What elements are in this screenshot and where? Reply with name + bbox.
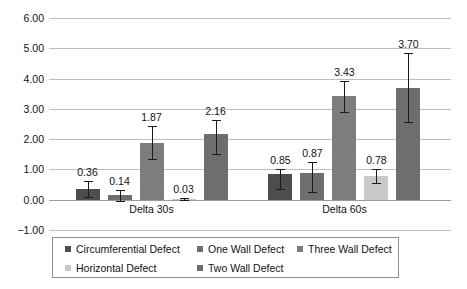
legend-label: Two Wall Defect: [208, 263, 283, 274]
error-bar: [376, 169, 377, 183]
gridline: [49, 18, 451, 19]
y-axis-tick-label: 3.00: [0, 104, 44, 115]
bar-value-label: 0.14: [102, 176, 138, 187]
legend-swatch-icon: [297, 246, 303, 252]
bar-chart: 6.005.004.003.002.001.000.00−1.00 0.360.…: [0, 0, 467, 289]
chart-legend: Circumferential DefectOne Wall DefectThr…: [52, 237, 399, 278]
y-axis-tick-label: −1.00: [0, 225, 44, 236]
y-axis-tick-label: 0.00: [0, 195, 44, 206]
error-bar-cap-upper: [340, 81, 349, 82]
legend-swatch-icon: [65, 246, 71, 252]
legend-item[interactable]: Two Wall Defect: [197, 259, 283, 277]
error-bar: [88, 181, 89, 197]
bar-value-label: 0.87: [294, 148, 330, 159]
error-bar-cap-lower: [180, 200, 189, 201]
legend-label: Circumferential Defect: [76, 244, 180, 255]
bar-value-label: 3.43: [326, 67, 362, 78]
error-bar: [344, 81, 345, 112]
error-bar-cap-upper: [308, 162, 317, 163]
error-bar-cap-lower: [372, 183, 381, 184]
error-bar-cap-upper: [372, 169, 381, 170]
error-bar: [408, 53, 409, 122]
legend-item[interactable]: Three Wall Defect: [297, 240, 392, 258]
bar-value-label: 0.85: [262, 155, 298, 166]
error-bar: [280, 169, 281, 189]
bar-value-label: 0.36: [70, 167, 106, 178]
error-bar-cap-lower: [308, 192, 317, 193]
error-bar: [216, 120, 217, 153]
y-axis-tick-label: 5.00: [0, 43, 44, 54]
legend-item[interactable]: Circumferential Defect: [65, 240, 180, 258]
gridline: [49, 169, 451, 170]
gridline: [49, 79, 451, 80]
x-axis-group-label: Delta 60s: [299, 204, 389, 215]
y-axis-tick-label: 4.00: [0, 74, 44, 85]
gridline: [49, 230, 451, 231]
error-bar: [120, 190, 121, 202]
bar-value-label: 2.16: [198, 106, 234, 117]
error-bar: [312, 162, 313, 191]
y-axis-tick-label: 6.00: [0, 13, 44, 24]
error-bar-cap-lower: [276, 189, 285, 190]
error-bar-cap-lower: [340, 112, 349, 113]
error-bar-cap-upper: [276, 169, 285, 170]
error-bar-cap-lower: [84, 197, 93, 198]
legend-row: Horizontal DefectTwo Wall Defect: [53, 259, 398, 277]
bar-value-label: 3.70: [390, 39, 426, 50]
bar-value-label: 0.78: [358, 155, 394, 166]
legend-swatch-icon: [197, 265, 203, 271]
bar-value-label: 1.87: [134, 112, 170, 123]
legend-item[interactable]: Horizontal Defect: [65, 259, 157, 277]
legend-label: Horizontal Defect: [76, 263, 157, 274]
legend-label: One Wall Defect: [208, 244, 284, 255]
gridline: [49, 109, 451, 110]
legend-label: Three Wall Defect: [308, 244, 392, 255]
error-bar-cap-upper: [180, 198, 189, 199]
error-bar-cap-lower: [148, 159, 157, 160]
error-bar-cap-lower: [116, 201, 125, 202]
legend-swatch-icon: [197, 246, 203, 252]
error-bar-cap-upper: [116, 190, 125, 191]
legend-row: Circumferential DefectOne Wall DefectThr…: [53, 240, 398, 258]
y-axis-tick-label: 1.00: [0, 164, 44, 175]
error-bar: [152, 126, 153, 159]
legend-swatch-icon: [65, 265, 71, 271]
gridline: [49, 200, 451, 201]
error-bar-cap-upper: [148, 126, 157, 127]
error-bar-cap-lower: [404, 122, 413, 123]
y-axis-tick-label: 2.00: [0, 134, 44, 145]
error-bar-cap-upper: [84, 181, 93, 182]
legend-item[interactable]: One Wall Defect: [197, 240, 284, 258]
error-bar-cap-lower: [212, 154, 221, 155]
gridline: [49, 139, 451, 140]
bar-value-label: 0.03: [166, 184, 202, 195]
x-axis-group-label: Delta 30s: [107, 204, 197, 215]
plot-area: 0.360.141.870.032.16Delta 30s0.850.873.4…: [49, 18, 451, 230]
error-bar-cap-upper: [212, 120, 221, 121]
error-bar-cap-upper: [404, 53, 413, 54]
